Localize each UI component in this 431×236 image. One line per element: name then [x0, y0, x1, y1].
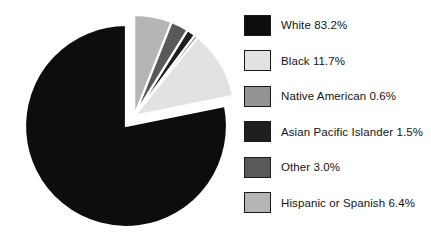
legend-swatch — [244, 121, 271, 142]
pie-svg: White 83.2%Black 11.7%Native American 0.… — [0, 0, 236, 236]
legend-swatch — [244, 157, 271, 178]
legend-item[interactable]: Other 3.0% — [244, 156, 340, 178]
legend-item[interactable]: Asian Pacific Islander 1.5% — [244, 121, 423, 143]
legend-swatch — [244, 15, 271, 36]
pie-chart-figure: White 83.2%Black 11.7%Native American 0.… — [0, 0, 431, 236]
legend-label: White 83.2% — [281, 19, 347, 31]
legend-swatch — [244, 86, 271, 107]
legend-swatch — [244, 192, 271, 213]
pie-plot-area: White 83.2%Black 11.7%Native American 0.… — [0, 0, 236, 236]
legend-label: Black 11.7% — [281, 55, 345, 67]
legend-label: Asian Pacific Islander 1.5% — [281, 126, 423, 138]
legend-item[interactable]: Hispanic or Spanish 6.4% — [244, 192, 415, 214]
chart-legend: White 83.2%Black 11.7%Native American 0.… — [244, 0, 431, 236]
legend-swatch — [244, 50, 271, 71]
legend-label: Hispanic or Spanish 6.4% — [281, 197, 415, 209]
legend-item[interactable]: Native American 0.6% — [244, 85, 396, 107]
legend-item[interactable]: White 83.2% — [244, 14, 347, 36]
legend-item[interactable]: Black 11.7% — [244, 50, 345, 72]
legend-label: Native American 0.6% — [281, 90, 396, 102]
legend-label: Other 3.0% — [281, 161, 340, 173]
